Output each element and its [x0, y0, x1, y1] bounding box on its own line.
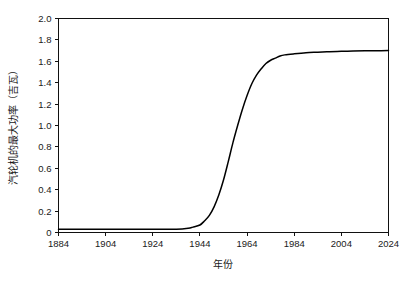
y-tick-label: 1.4: [38, 77, 51, 88]
x-axis-ticks: 18841904192419441964198420042024: [48, 233, 399, 249]
x-tick-label: 1884: [48, 238, 69, 249]
y-tick-label: 2.0: [38, 13, 51, 24]
line-chart: 00.20.40.60.81.01.21.41.61.82.0 18841904…: [0, 0, 417, 282]
y-tick-label: 1.6: [38, 56, 51, 67]
x-axis-title: 年份: [213, 258, 233, 270]
x-tick-label: 1984: [284, 238, 305, 249]
x-tick-label: 2004: [331, 238, 352, 249]
y-tick-label: 0.6: [38, 163, 51, 174]
series-line-max-turbine-power: [59, 51, 389, 230]
y-tick-label: 1.8: [38, 34, 51, 45]
y-tick-label: 0.4: [38, 184, 51, 195]
plot-frame: [59, 19, 389, 233]
y-tick-label: 1.2: [38, 99, 51, 110]
y-tick-label: 0.2: [38, 206, 51, 217]
y-tick-label: 0: [46, 227, 51, 238]
x-tick-label: 1904: [95, 238, 116, 249]
x-tick-label: 1944: [189, 238, 210, 249]
chart-container: 00.20.40.60.81.01.21.41.61.82.0 18841904…: [0, 0, 417, 282]
x-tick-label: 1964: [237, 238, 258, 249]
x-tick-label: 1924: [142, 238, 163, 249]
y-tick-label: 1.0: [38, 120, 51, 131]
y-axis-title: 汽轮机的最大功率（吉瓦）: [7, 65, 19, 185]
y-tick-label: 0.8: [38, 141, 51, 152]
x-tick-label: 2024: [378, 238, 399, 249]
y-axis-ticks: 00.20.40.60.81.01.21.41.61.82.0: [38, 13, 58, 238]
